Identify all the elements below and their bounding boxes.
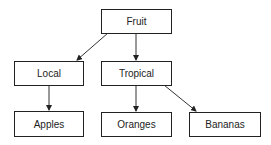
node-local: Local (14, 61, 84, 86)
node-bananas: Bananas (189, 112, 261, 137)
edge-tropical-bananas (164, 85, 196, 111)
node-label: Bananas (205, 119, 244, 130)
node-label: Apples (34, 119, 65, 130)
node-oranges: Oranges (101, 112, 172, 137)
node-label: Local (37, 68, 61, 79)
edge-fruit-local (77, 33, 108, 60)
node-apples: Apples (14, 111, 84, 137)
node-label: Fruit (127, 16, 147, 27)
node-label: Oranges (117, 119, 155, 130)
node-tropical: Tropical (101, 61, 172, 86)
node-label: Tropical (119, 68, 154, 79)
node-fruit: Fruit (101, 9, 172, 34)
